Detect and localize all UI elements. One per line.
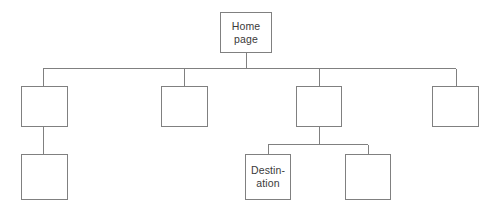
node-home-label: Home page bbox=[232, 20, 260, 46]
node-branch-4[interactable] bbox=[432, 86, 479, 127]
node-home[interactable]: Home page bbox=[220, 12, 272, 53]
node-branch-3[interactable] bbox=[296, 86, 342, 127]
site-map-diagram: Home page Destin- ation bbox=[0, 0, 498, 218]
node-branch-3-child-2[interactable] bbox=[345, 154, 391, 200]
node-branch-2[interactable] bbox=[161, 86, 208, 127]
node-branch-1[interactable] bbox=[21, 86, 68, 127]
node-destination-label: Destin- ation bbox=[251, 164, 285, 190]
node-destination[interactable]: Destin- ation bbox=[245, 154, 291, 200]
node-branch-1-child[interactable] bbox=[21, 154, 68, 200]
